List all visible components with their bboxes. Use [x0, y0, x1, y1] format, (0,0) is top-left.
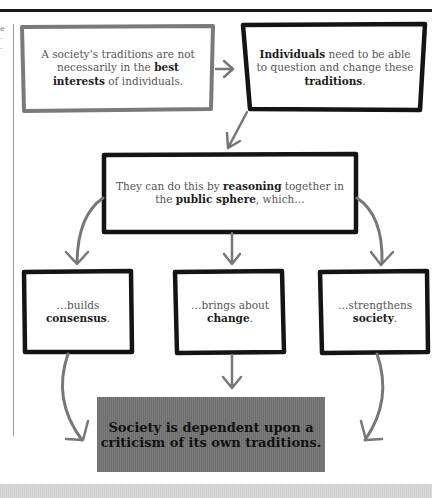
bottom-band [0, 484, 432, 498]
text: of individuals. [105, 75, 183, 87]
box6-text: …strengthens society. [328, 278, 422, 346]
arrow-curve-left-icon [77, 198, 103, 262]
emphasis: change [207, 312, 250, 324]
text: , which… [256, 193, 305, 205]
conclusion-text: Society is dependent upon a criticism of… [97, 420, 325, 450]
box4-text: …builds consensus. [32, 278, 124, 346]
text: …strengthens [338, 299, 412, 311]
emphasis: traditions [304, 75, 362, 87]
box3-text: They can do this by reasoning together i… [112, 160, 348, 226]
text: …brings about [191, 299, 269, 311]
text: . [394, 312, 397, 324]
emphasis: Individuals [260, 48, 326, 60]
arrow-down-icon [224, 233, 240, 264]
text: . [362, 75, 365, 87]
box5-text: …brings about change. [183, 278, 277, 346]
conclusion-box: Society is dependent upon a criticism of… [97, 397, 325, 472]
emphasis: public sphere [176, 193, 256, 205]
box1-text: A society’s traditions are not necessari… [30, 32, 206, 104]
arrow-right-icon [216, 61, 233, 77]
arrow-curve-left-bottom-icon [62, 354, 82, 440]
text: They can do this by [116, 180, 223, 192]
text: . [250, 312, 253, 324]
arrow-diagonal-icon [227, 112, 247, 148]
arrow-curve-right-icon [357, 198, 382, 262]
arrow-curve-right-bottom-icon [365, 354, 383, 440]
arrow-down-bottom-icon [223, 355, 241, 388]
emphasis: consensus [46, 312, 107, 324]
emphasis: reasoning [223, 180, 282, 192]
emphasis: society [353, 312, 394, 324]
text: . [107, 312, 110, 324]
box2-text: Individuals need to be able to question … [255, 32, 415, 104]
text: …builds [57, 299, 100, 311]
